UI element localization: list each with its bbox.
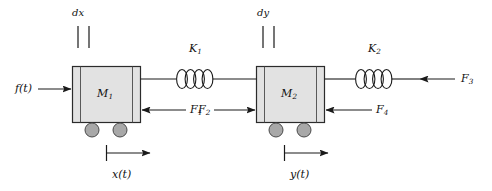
- mass-1-label: M1: [97, 88, 113, 99]
- displacement-x-label: x(t): [112, 169, 131, 180]
- wheel: [269, 123, 283, 137]
- wheel: [297, 123, 311, 137]
- damper-dx-symbol: [78, 26, 89, 48]
- force-ft-label: f(t): [15, 83, 32, 94]
- mass-2-label: M2: [281, 88, 297, 99]
- spring-k1-label: K1: [189, 43, 202, 54]
- wheel: [113, 123, 127, 137]
- spring-k1-symbol: [141, 70, 257, 89]
- damper-dx-label: dx: [72, 8, 84, 18]
- displacement-x-arrow: [107, 145, 151, 161]
- diagram-vector-layer: [0, 0, 492, 191]
- cart-1: [73, 67, 141, 138]
- force-f3-label: F3: [461, 73, 473, 84]
- displacement-y-arrow: [285, 145, 329, 161]
- spring-k2-label: K2: [368, 43, 381, 54]
- damper-dy-label: dy: [257, 8, 269, 18]
- cart-2: [257, 67, 325, 138]
- spring-k2-symbol: [325, 70, 421, 89]
- damper-dy-symbol: [263, 26, 274, 48]
- force-f4-label: F4: [376, 104, 388, 115]
- force-f2-label: F2: [198, 104, 210, 115]
- displacement-y-label: y(t): [290, 169, 309, 180]
- wheel: [85, 123, 99, 137]
- diagram-canvas: dx dy K1 K2 M1 M2 f(t) F1 F2 F4 F3 x(t) …: [0, 0, 492, 191]
